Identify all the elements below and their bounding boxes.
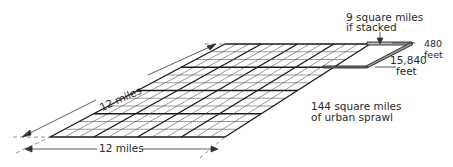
length-unit-label: feet xyxy=(396,66,417,77)
height-value-label: 480 xyxy=(424,38,442,49)
bottom-side-label: 12 miles xyxy=(99,143,144,154)
height-unit-label: feet xyxy=(424,49,443,60)
sprawl-label-line2: of urban sprawl xyxy=(311,112,393,123)
stacked-label-line2: if stacked xyxy=(346,22,397,33)
urban-sprawl-diagram: 12 miles 12 miles 9 square miles if stac… xyxy=(0,0,453,167)
